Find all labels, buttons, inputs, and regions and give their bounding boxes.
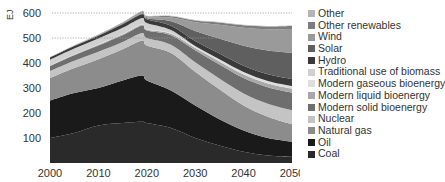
legend-label: Natural gas — [318, 125, 372, 137]
x-tick-label: 2010 — [86, 167, 110, 179]
x-tick-label: 2050 — [280, 167, 300, 179]
legend-swatch — [308, 104, 315, 111]
legend-swatch — [308, 92, 315, 99]
legend-swatch — [308, 80, 315, 87]
x-tick-label: 2020 — [135, 167, 159, 179]
x-tick-label: 2040 — [231, 167, 255, 179]
legend-swatch — [308, 127, 315, 134]
stacked-area-chart: EJ 100200300400500600 200020102020203020… — [0, 0, 300, 182]
legend-swatch — [308, 34, 315, 41]
y-tick-label: 300 — [23, 82, 41, 94]
legend-item: Natural gas — [308, 125, 445, 137]
legend-swatch — [308, 10, 315, 17]
y-tick-label: 600 — [23, 7, 41, 19]
y-tick-label: 500 — [23, 32, 41, 44]
legend-item: Coal — [308, 148, 445, 160]
x-tick-label: 2000 — [38, 167, 62, 179]
y-axis-ticks: 100200300400500600 — [23, 7, 41, 144]
legend-label: Coal — [318, 148, 340, 160]
legend-swatch — [308, 69, 315, 76]
legend-swatch — [308, 57, 315, 64]
legend-swatch — [308, 151, 315, 158]
legend-item: Solar — [308, 43, 445, 55]
legend-label: Modern liquid bioenergy — [318, 90, 430, 102]
legend-swatch — [308, 22, 315, 29]
legend-item: Other — [308, 8, 445, 20]
y-tick-label: 200 — [23, 107, 41, 119]
legend-label: Solar — [318, 43, 343, 55]
legend-swatch — [308, 116, 315, 123]
y-tick-label: 400 — [23, 57, 41, 69]
legend-swatch — [308, 45, 315, 52]
y-axis-label: EJ — [5, 9, 15, 20]
x-tick-label: 2030 — [183, 167, 207, 179]
legend-swatch — [308, 139, 315, 146]
chart-legend: Other Other renewables Wind Solar Hydro … — [308, 8, 445, 160]
legend-label: Other — [318, 8, 344, 20]
x-axis-ticks: 200020102020203020402050 — [38, 167, 300, 179]
y-tick-label: 100 — [23, 132, 41, 144]
chart-areas — [50, 11, 292, 163]
legend-item: Modern liquid bioenergy — [308, 90, 445, 102]
